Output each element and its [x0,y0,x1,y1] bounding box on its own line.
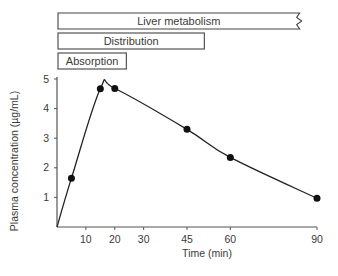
y-tick-label: 4 [43,102,49,114]
data-point [314,195,321,202]
pharmacokinetics-chart: Liver metabolismDistributionAbsorption 1… [0,0,338,276]
data-point [184,126,191,133]
phase-label: Liver metabolism [137,15,220,27]
data-point [68,175,75,182]
y-ticks: 12345 [43,73,57,203]
phase-bars: Liver metabolismDistributionAbsorption [58,13,302,69]
x-tick-label: 90 [311,233,323,245]
phase-bar: Distribution [58,33,204,49]
y-axis-title: Plasma concentration (µg/mL) [8,91,20,231]
y-tick-label: 3 [43,132,49,144]
x-tick-label: 30 [138,233,150,245]
phase-label: Absorption [66,55,119,67]
phase-bar: Liver metabolism [58,13,302,29]
data-point [111,85,118,92]
data-point [97,85,104,92]
x-tick-label: 45 [181,233,193,245]
y-tick-label: 2 [43,161,49,173]
data-points [68,85,321,202]
data-point [227,154,234,161]
y-tick-label: 5 [43,73,49,85]
x-axis-title: Time (min) [182,247,232,259]
x-tick-label: 60 [224,233,236,245]
x-tick-label: 10 [80,233,92,245]
x-tick-label: 20 [109,233,121,245]
x-ticks: 102030456090 [80,227,323,245]
concentration-curve [57,80,317,227]
y-tick-label: 1 [43,191,49,203]
phase-label: Distribution [104,35,159,47]
phase-bar: Absorption [58,53,126,69]
